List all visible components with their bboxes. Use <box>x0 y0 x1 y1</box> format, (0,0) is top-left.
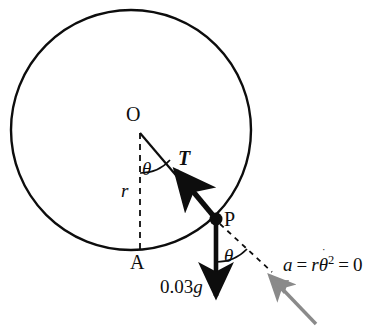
label-angle-theta-point: θ <box>224 246 233 265</box>
label-acceleration-equation: a=r˙θ2=0 <box>283 255 362 274</box>
accel-radius-symbol: r <box>311 254 318 275</box>
label-point-a: A <box>130 252 144 272</box>
accel-symbol: a <box>283 254 293 275</box>
point-p-marker <box>210 213 223 226</box>
label-weight-force: 0.03g <box>160 277 203 296</box>
theta-dot-term: ˙θ <box>319 255 328 274</box>
label-angle-theta-center: θ <box>142 159 151 178</box>
gravity-symbol: g <box>193 276 203 297</box>
label-tension-t: T <box>178 148 190 168</box>
acceleration-equation-expression: a=r˙θ2=0 <box>283 255 362 274</box>
physics-diagram-canvas: O A P T r θ θ 0.03g a=r˙θ2=0 <box>0 0 392 327</box>
tension-vector-arrow <box>176 171 216 219</box>
weight-magnitude: 0.03 <box>160 276 193 297</box>
label-radius-r: r <box>121 181 128 200</box>
label-center-o: O <box>126 104 140 124</box>
equals-sign-2: = <box>334 254 353 275</box>
equals-sign-1: = <box>293 254 312 275</box>
label-point-p: P <box>224 209 235 229</box>
accel-value-zero: 0 <box>353 254 363 275</box>
theta-dot-accent: ˙ <box>322 248 326 260</box>
